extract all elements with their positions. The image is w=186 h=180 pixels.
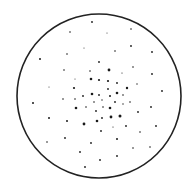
diffraction-spot bbox=[32, 102, 34, 104]
laue-pattern-canvas bbox=[0, 0, 186, 180]
diffraction-spot bbox=[101, 117, 103, 119]
diffraction-spot bbox=[98, 79, 100, 81]
diffraction-spot bbox=[137, 111, 139, 113]
diffraction-spot bbox=[63, 69, 65, 71]
diffraction-spot bbox=[73, 87, 75, 89]
diffraction-spot bbox=[130, 28, 132, 30]
diffraction-spot bbox=[101, 99, 102, 100]
diffraction-spot bbox=[119, 115, 122, 118]
diffraction-spot bbox=[151, 51, 153, 53]
diffraction-spot bbox=[95, 110, 97, 112]
diffraction-spot bbox=[89, 70, 91, 72]
diffraction-spot bbox=[136, 83, 137, 84]
diffraction-spot bbox=[132, 147, 134, 149]
diffraction-figure bbox=[0, 0, 186, 180]
diffraction-spot bbox=[122, 103, 123, 104]
diffraction-spot bbox=[130, 45, 132, 47]
diffraction-spot bbox=[82, 95, 84, 97]
diffraction-spot bbox=[98, 61, 100, 63]
diffraction-spot bbox=[85, 106, 87, 108]
diffraction-spot bbox=[98, 94, 100, 96]
diffraction-spot bbox=[108, 69, 111, 72]
diffraction-spot bbox=[151, 73, 153, 75]
diffraction-spot bbox=[129, 101, 131, 103]
diffraction-spot bbox=[139, 131, 141, 133]
diffraction-spot bbox=[116, 82, 118, 84]
diffraction-spot bbox=[46, 141, 48, 143]
diffraction-spot bbox=[112, 126, 113, 127]
diffraction-spot bbox=[90, 142, 92, 144]
diffraction-spot bbox=[116, 155, 118, 157]
diffraction-spot bbox=[93, 101, 95, 103]
diffraction-spot bbox=[69, 31, 71, 33]
diffraction-spot bbox=[110, 116, 113, 119]
diffraction-spot bbox=[39, 58, 41, 60]
diffraction-spot bbox=[125, 125, 127, 127]
diffraction-spot bbox=[96, 120, 99, 123]
diffraction-spot bbox=[116, 92, 119, 95]
diffraction-spot bbox=[149, 146, 151, 148]
diffraction-spot bbox=[66, 120, 68, 122]
diffraction-spot bbox=[114, 101, 116, 103]
diffraction-spot bbox=[121, 72, 122, 73]
diffraction-spot bbox=[114, 50, 116, 52]
diffraction-spot bbox=[100, 130, 102, 132]
diffraction-spot bbox=[74, 98, 76, 100]
diffraction-spot bbox=[48, 117, 50, 119]
diffraction-spot bbox=[66, 53, 68, 55]
diffraction-spot bbox=[49, 87, 50, 88]
diffraction-spot bbox=[150, 106, 152, 108]
diffraction-spot bbox=[107, 88, 109, 90]
diffraction-spot bbox=[64, 137, 66, 139]
diffraction-spot bbox=[155, 125, 157, 127]
film-boundary-circle bbox=[17, 14, 181, 178]
diffraction-spot bbox=[84, 48, 85, 49]
diffraction-spot bbox=[91, 93, 94, 96]
diffraction-spot bbox=[132, 66, 134, 68]
diffraction-spot bbox=[116, 138, 118, 140]
diffraction-spot bbox=[83, 123, 86, 126]
diffraction-spot bbox=[75, 79, 76, 80]
diffraction-spot bbox=[102, 106, 104, 108]
diffraction-spot bbox=[79, 151, 81, 153]
diffraction-spot bbox=[84, 166, 86, 168]
diffraction-spot bbox=[109, 95, 111, 97]
diffraction-spot bbox=[107, 80, 109, 82]
diffraction-spot bbox=[109, 107, 112, 110]
diffraction-spot bbox=[90, 78, 93, 81]
diffraction-spot bbox=[91, 21, 93, 23]
diffraction-spots bbox=[32, 21, 163, 168]
diffraction-spot bbox=[99, 159, 101, 161]
diffraction-spot bbox=[75, 107, 78, 110]
diffraction-spot bbox=[62, 98, 64, 100]
diffraction-spot bbox=[107, 33, 108, 34]
diffraction-spot bbox=[122, 94, 124, 96]
diffraction-spot bbox=[126, 87, 128, 89]
diffraction-spot bbox=[161, 90, 163, 92]
